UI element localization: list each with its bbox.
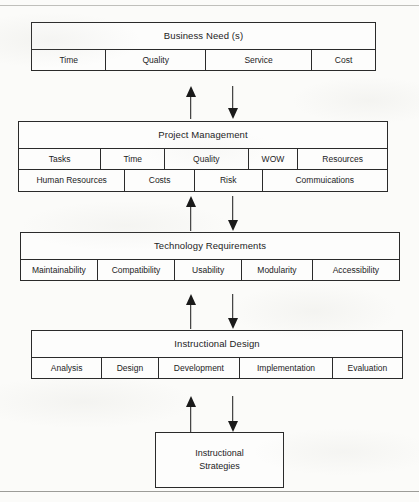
arrow-up-instructional-to-technology — [184, 294, 197, 329]
cell-wow: WOW — [249, 149, 299, 170]
cell-tasks: Tasks — [19, 149, 101, 170]
cell-maintainability: Maintainability — [21, 260, 98, 281]
cell-communications: Commuications — [263, 170, 387, 191]
cell-risk: Risk — [195, 170, 263, 191]
level-project-management-row-1: Tasks Time Quality WOW Resources — [19, 149, 387, 170]
cell-costs: Costs — [125, 170, 195, 191]
arrow-up-technology-to-project — [184, 196, 197, 231]
cell-quality: Quality — [106, 50, 205, 71]
cell-time-pm: Time — [101, 149, 165, 170]
level-project-management: Project Management Tasks Time Quality WO… — [18, 121, 388, 192]
cell-time: Time — [32, 50, 106, 71]
cell-accessibility: Accessibility — [313, 260, 399, 281]
arrow-up-strategies-to-instructional — [184, 396, 197, 432]
cell-quality-pm: Quality — [165, 149, 249, 170]
cell-cost: Cost — [312, 50, 375, 71]
level-technology-requirements: Technology Requirements Maintainability … — [20, 232, 400, 281]
strategies-line-1: Instructional — [195, 448, 244, 458]
cell-implementation: Implementation — [240, 358, 333, 379]
arrow-down-project-to-technology — [226, 196, 239, 231]
level-business-needs-title: Business Need (s) — [32, 23, 375, 50]
level-instructional-design-row: Analysis Design Development Implementati… — [32, 358, 402, 379]
level-project-management-row-2: Human Resources Costs Risk Commuications — [19, 169, 387, 191]
cell-evaluation: Evaluation — [333, 358, 402, 379]
cell-service: Service — [206, 50, 312, 71]
cell-design: Design — [102, 358, 158, 379]
strategies-line-2: Strategies — [199, 461, 240, 471]
arrow-down-instructional-to-strategies — [226, 396, 239, 432]
page-frame-bottom-rule — [0, 491, 419, 492]
box-instructional-strategies-text: Instructional Strategies — [195, 447, 244, 474]
arrow-down-technology-to-instructional — [226, 294, 239, 329]
level-business-needs-row: Time Quality Service Cost — [32, 50, 375, 71]
cell-modularity: Modularity — [242, 260, 313, 281]
level-technology-requirements-row: Maintainability Compatibility Usability … — [21, 260, 399, 281]
level-business-needs: Business Need (s) Time Quality Service C… — [31, 22, 376, 71]
cell-analysis: Analysis — [32, 358, 102, 379]
cell-usability: Usability — [175, 260, 242, 281]
level-technology-requirements-title: Technology Requirements — [21, 233, 399, 260]
cell-human-resources: Human Resources — [19, 170, 125, 191]
level-instructional-design: Instructional Design Analysis Design Dev… — [31, 330, 403, 379]
arrow-up-project-to-business — [184, 86, 197, 119]
page-frame-top-rule — [0, 5, 419, 6]
box-instructional-strategies: Instructional Strategies — [155, 432, 284, 488]
cell-compatibility: Compatibility — [98, 260, 175, 281]
cell-development: Development — [159, 358, 241, 379]
level-project-management-title: Project Management — [19, 122, 387, 149]
level-instructional-design-title: Instructional Design — [32, 331, 402, 358]
arrow-down-business-to-project — [226, 86, 239, 119]
cell-resources: Resources — [298, 149, 387, 170]
